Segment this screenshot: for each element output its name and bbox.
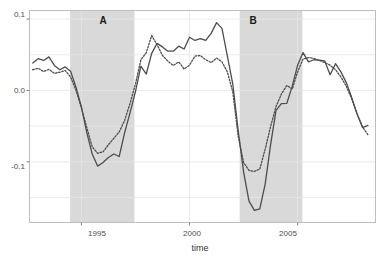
y-tick-label-2: -0.1 <box>3 163 25 171</box>
shaded-band-b <box>240 11 303 223</box>
x-axis-title: time <box>160 244 240 253</box>
line-chart-canvas <box>0 0 387 260</box>
x-tick-label-1995: 1995 <box>78 230 116 238</box>
band-label-b: B <box>243 16 263 26</box>
chart-figure: 0.1 0.0 -0.1 1995 2000 2005 time A B <box>0 0 387 260</box>
band-label-a: A <box>93 16 113 26</box>
shaded-bands-group <box>70 11 302 223</box>
y-tick-label-1: 0.0 <box>3 87 25 95</box>
x-tick-label-2005: 2005 <box>269 230 307 238</box>
y-tick-label-0: 0.1 <box>3 11 25 19</box>
gridlines-group <box>30 11 376 223</box>
shaded-band-a <box>70 11 134 223</box>
x-tick-label-2000: 2000 <box>173 230 211 238</box>
